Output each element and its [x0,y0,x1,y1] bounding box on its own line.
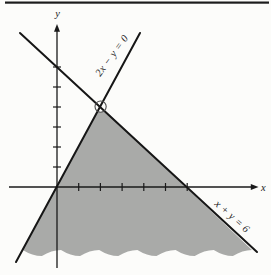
graph-canvas: x y 2x − y = 0 x + y = 6 [0,0,271,275]
x-axis-label: x [260,182,266,193]
label-line-2x-minus-y-equals-0: 2x − y = 0 [93,32,131,78]
top-rule-divider [5,2,269,4]
math-figure: x y 2x − y = 0 x + y = 6 [0,0,271,275]
x-axis-arrowhead-icon [251,184,259,190]
y-axis-arrowhead-icon [54,24,60,32]
y-axis-label: y [54,8,60,19]
